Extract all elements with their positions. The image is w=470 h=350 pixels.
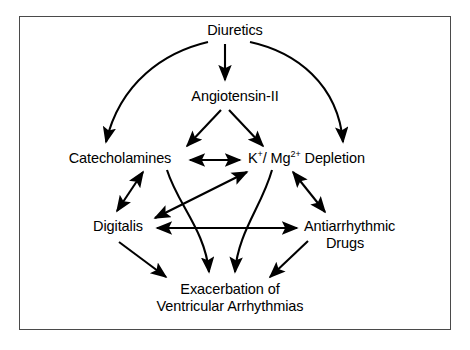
node-antiarrhythmic-drugs: Antiarrhythmic Drugs: [304, 218, 424, 252]
edge-kmg-exacerbation: [235, 170, 272, 272]
node-catecholamines: Catecholamines: [60, 150, 180, 167]
node-catecholamines-label: Catecholamines: [69, 150, 172, 166]
edge-angiotensin-catecholamines: [187, 110, 221, 146]
edge-catecholamines-exacerbation: [167, 170, 209, 272]
node-diuretics: Diuretics: [185, 22, 285, 39]
node-digitalis: Digitalis: [78, 218, 158, 235]
edge-antiarrhythmic-exacerbation: [270, 241, 308, 277]
node-antiarrhythmic-drugs-line2: Drugs: [304, 235, 424, 252]
node-exacerbation-ventricular-arrhythmias: Exacerbation of Ventricular Arrhythmias: [135, 281, 325, 315]
edge-digitalis-exacerbation: [119, 242, 166, 277]
node-k-mg-depletion-suffix: Depletion: [301, 150, 365, 166]
edge-digitalis-kmg: [155, 172, 247, 218]
node-angiotensin-ii-label: Angiotensin-II: [191, 88, 278, 104]
node-antiarrhythmic-drugs-line1: Antiarrhythmic: [304, 218, 395, 234]
node-k-mg-depletion-prefix: K: [248, 150, 258, 166]
node-exacerbation-line2: Ventricular Arrhythmias: [135, 298, 325, 315]
edge-catecholamines-digitalis: [117, 172, 143, 211]
edge-angiotensin-kmg: [229, 110, 263, 146]
node-k-mg-depletion: K+/ Mg2+ Depletion: [248, 150, 418, 167]
node-angiotensin-ii: Angiotensin-II: [160, 88, 310, 105]
node-k-mg-depletion-sup-two-plus: 2+: [291, 149, 301, 159]
edge-kmg-antiarrhythmic: [293, 172, 325, 212]
diagram-page: Diuretics Angiotensin-II Catecholamines …: [0, 0, 470, 350]
node-diuretics-label: Diuretics: [207, 22, 263, 38]
node-k-mg-depletion-middle: / Mg: [263, 150, 291, 166]
node-digitalis-label: Digitalis: [93, 218, 143, 234]
node-exacerbation-line1: Exacerbation of: [180, 281, 279, 297]
